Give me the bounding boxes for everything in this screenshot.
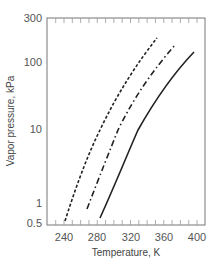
x-tick-320: 320: [122, 231, 140, 243]
series-solid: [100, 52, 194, 218]
x-tick-280: 280: [88, 231, 106, 243]
y-tick-labels: 300 100 10 1 0.5: [24, 12, 42, 229]
y-tick-10: 10: [30, 123, 42, 135]
x-tick-240: 240: [55, 231, 73, 243]
y-tick-0-5: 0.5: [27, 217, 42, 229]
vapor-pressure-chart: 300 100 10 1 0.5 240 280 320 360 400 Tem…: [0, 0, 224, 262]
x-ticks: [56, 18, 197, 225]
y-tick-100: 100: [24, 56, 42, 68]
x-axis-title: Temperature, K: [92, 247, 161, 258]
x-tick-360: 360: [155, 231, 173, 243]
y-tick-1: 1: [36, 197, 42, 209]
series-dash-dot: [87, 45, 175, 209]
x-tick-400: 400: [188, 231, 206, 243]
plot-frame: [47, 18, 205, 225]
y-axis-title: Vapor pressure, kPa: [5, 75, 16, 166]
y-tick-300: 300: [24, 12, 42, 24]
x-tick-labels: 240 280 320 360 400: [55, 231, 206, 243]
